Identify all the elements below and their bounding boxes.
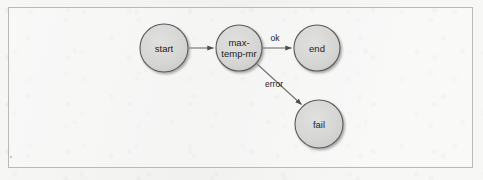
edge-label-ok: ok <box>271 33 281 43</box>
node-end-label: end <box>309 43 325 54</box>
node-start-label: start <box>155 43 174 54</box>
node-max-temp-mr-label-line2: temp-mr <box>221 48 256 59</box>
node-fail-label: fail <box>313 119 325 130</box>
node-fail[interactable]: fail <box>295 100 343 148</box>
node-layer: start max- temp-mr end fail <box>140 24 343 148</box>
edge-label-layer: ok error <box>265 33 283 89</box>
node-start[interactable]: start <box>140 24 188 72</box>
node-end[interactable]: end <box>294 25 340 71</box>
node-max-temp-mr[interactable]: max- temp-mr <box>216 25 262 71</box>
node-max-temp-mr-label-line1: max- <box>228 37 249 48</box>
edge-label-error: error <box>265 79 283 89</box>
state-flow-diagram: ok error start max- temp-mr end <box>0 0 483 180</box>
figure-container: ok error start max- temp-mr end <box>0 0 483 180</box>
